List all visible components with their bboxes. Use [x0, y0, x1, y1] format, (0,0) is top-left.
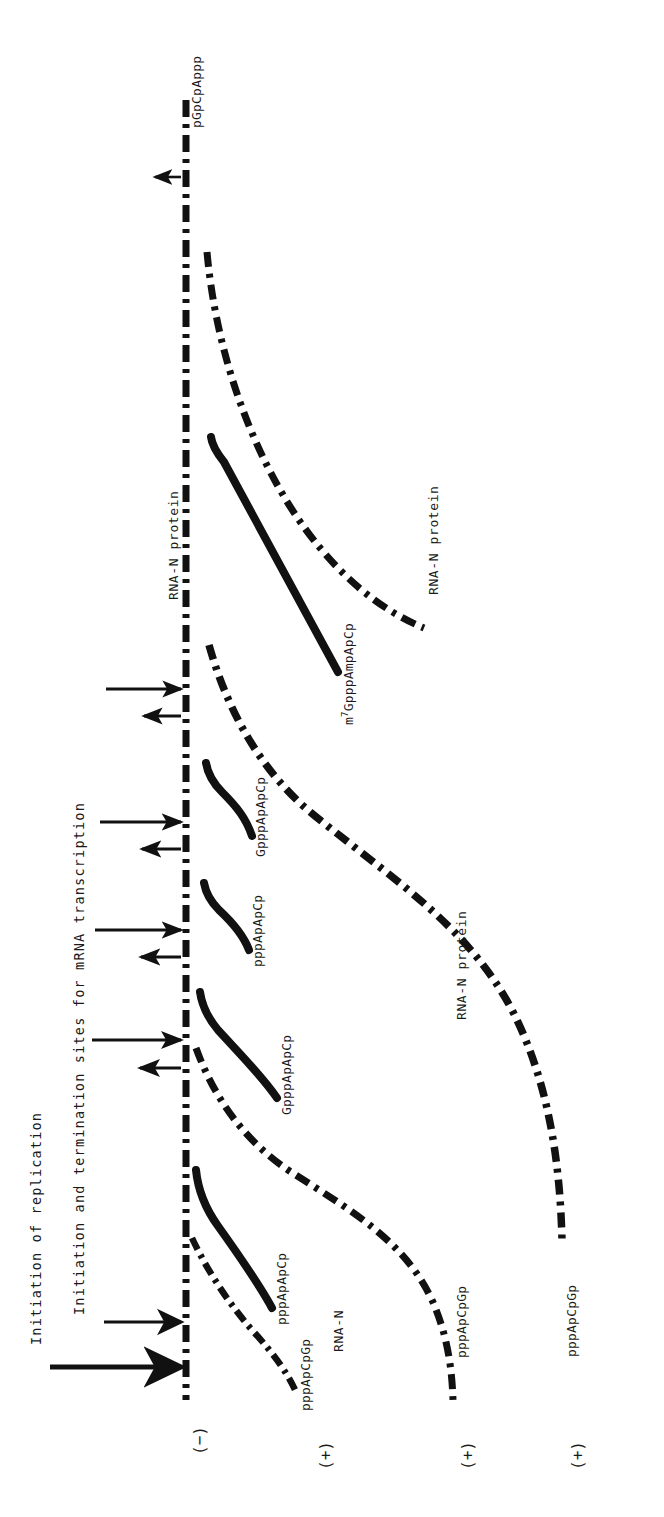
rnan-strand-middle [196, 1048, 453, 1400]
mrna-transcript-3 [204, 883, 249, 950]
arrow-pair-4 [106, 689, 181, 716]
mrna-transcript-1 [196, 1170, 272, 1308]
label-rna-n-protein-1: RNA-N protein [167, 490, 180, 600]
label-mrna-2: GpppApApCp [280, 1035, 293, 1115]
label-initiation-of-replication: Initiation of replication [30, 1112, 44, 1345]
label-rna-n-protein-4: RNA-N protein [455, 910, 468, 1020]
label-initiation-termination-sites: Initiation and termination sites for mRN… [73, 802, 87, 1315]
label-rna-n-protein-3: RNA-N [332, 1310, 345, 1352]
figure-canvas: pGpCpAppp RNA-N protein RNA-N protein m7… [0, 0, 664, 1517]
mrna-transcript-capped [211, 437, 338, 672]
arrow-pair-3 [100, 822, 181, 849]
label-mrna-capped-rest: GpppAmpApCp [341, 623, 356, 711]
label-strand-plus-2: (+) [460, 1441, 476, 1470]
label-mrna-1: pppApApCp [275, 1253, 288, 1325]
label-genome-3-end: pGpCpAppp [190, 56, 203, 128]
label-mrna-4: GpppApApCp [254, 777, 267, 857]
label-rna-n-protein-2: RNA-N protein [427, 485, 440, 595]
label-mrna-capped-prefix: m [341, 717, 356, 725]
label-mrna-capped: m7GpppAmpApCp [341, 623, 355, 725]
label-strand-plus-1: (+) [318, 1441, 334, 1470]
label-antigenome-1: pppApCpGp [299, 1339, 312, 1411]
label-strand-minus: (−) [192, 1426, 208, 1455]
label-antigenome-2: pppApCpGp [455, 1286, 468, 1358]
label-antigenome-3: pppApCpGp [565, 1285, 578, 1357]
mrna-transcript-4 [206, 763, 252, 836]
arrow-pair-2 [95, 930, 181, 957]
label-mrna-capped-superscript: 7 [340, 711, 350, 717]
arrow-pair-1 [92, 1040, 181, 1068]
rnan-strand-upper [207, 252, 424, 628]
label-strand-plus-3: (+) [570, 1441, 586, 1470]
label-mrna-3: pppApApCp [251, 895, 264, 967]
